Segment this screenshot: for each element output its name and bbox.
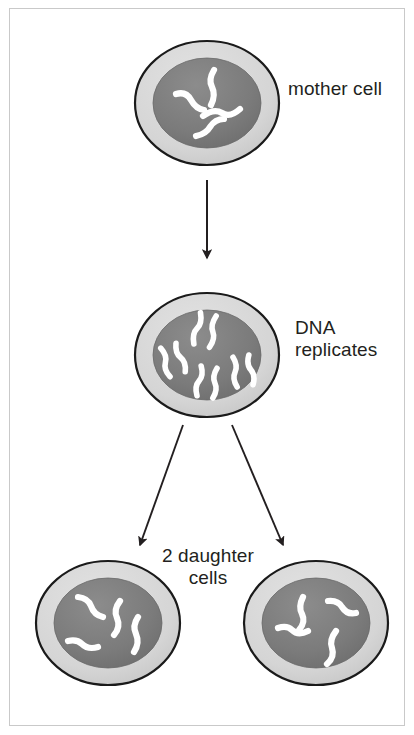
cell-mother-cell bbox=[135, 41, 279, 165]
arrow-replicated-to-daughter-right bbox=[232, 425, 283, 545]
chromosome-replicated bbox=[231, 357, 239, 387]
nucleus bbox=[262, 578, 370, 668]
chromosome bbox=[114, 601, 120, 635]
chromosome bbox=[299, 597, 303, 630]
label-daughter-cells: 2 daughter cells bbox=[137, 545, 279, 589]
chromosome-replicated bbox=[211, 368, 219, 398]
label-mother-cell: mother cell bbox=[288, 78, 382, 100]
label-dna-replicates: DNA replicates bbox=[295, 317, 377, 361]
cell-replicated-cell bbox=[135, 293, 279, 417]
chromosome bbox=[210, 70, 214, 105]
mitosis-diagram bbox=[0, 0, 414, 735]
nucleus bbox=[153, 310, 261, 400]
arrow-replicated-to-daughter-left bbox=[140, 425, 183, 545]
chromosome bbox=[134, 617, 138, 652]
chromosome bbox=[203, 109, 240, 116]
nucleus bbox=[54, 578, 162, 668]
